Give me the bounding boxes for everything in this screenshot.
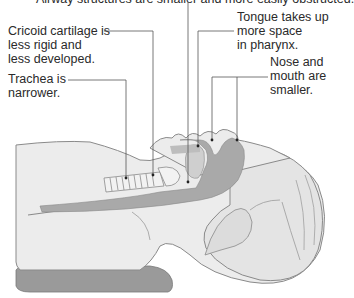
infant-airway-illustration	[0, 0, 332, 298]
